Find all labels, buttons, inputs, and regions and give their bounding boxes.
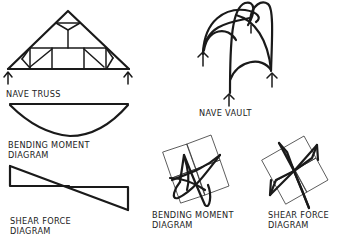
vault-bending-moment-label-line2: DIAGRAM xyxy=(152,220,193,230)
truss-bending-moment-label-line2: DIAGRAM xyxy=(8,150,49,160)
vault-shear-force-drawing xyxy=(262,136,328,208)
vault-bending-moment-label-line1: BENDING MOMENT xyxy=(152,210,234,220)
truss-shear-force-drawing xyxy=(10,166,128,210)
truss-bending-moment-drawing xyxy=(10,104,128,136)
nave-truss-label: NAVE TRUSS xyxy=(6,89,61,99)
vault-shear-force-label-line1: SHEAR FORCE xyxy=(268,210,329,220)
nave-vault-drawing xyxy=(198,3,277,106)
truss-shear-force-label-line2: DIAGRAM xyxy=(10,226,51,236)
truss-shear-force-label-line1: SHEAR FORCE xyxy=(10,216,71,226)
vault-shear-force-label-line2: DIAGRAM xyxy=(268,220,309,230)
diagram-canvas xyxy=(0,0,337,243)
nave-vault-label: NAVE VAULT xyxy=(199,108,252,118)
vault-bending-moment-drawing xyxy=(163,135,229,206)
nave-truss-drawing xyxy=(4,11,132,84)
truss-bending-moment-label-line1: BENDING MOMENT xyxy=(8,140,90,150)
